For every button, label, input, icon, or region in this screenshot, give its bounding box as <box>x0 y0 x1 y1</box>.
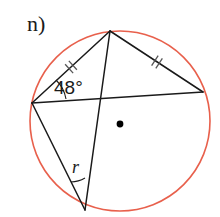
diagonal-top-bottom <box>85 31 110 210</box>
geometry-figure: n) 48° r <box>0 0 220 217</box>
angle-arc-r <box>71 178 85 182</box>
part-label: n) <box>27 13 45 35</box>
radius-label: r <box>72 158 79 176</box>
chord-top-right <box>110 31 203 92</box>
angle-measure-label: 48° <box>54 78 83 97</box>
center-dot <box>117 121 124 128</box>
